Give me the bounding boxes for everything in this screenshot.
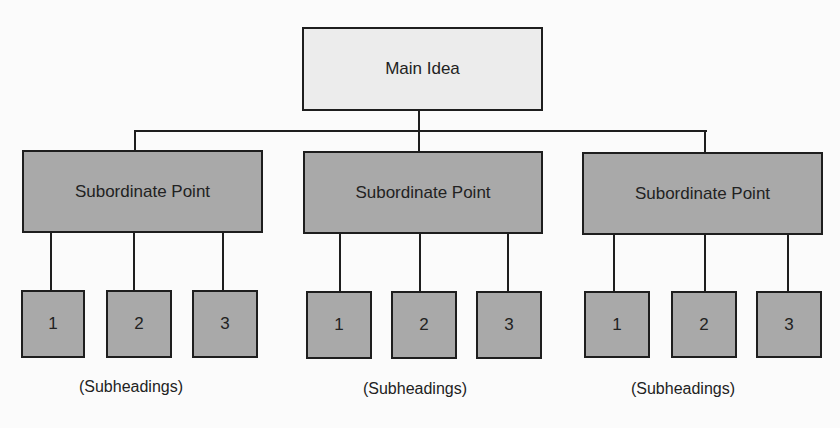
- subheading-number: 1: [48, 314, 57, 334]
- subheading-box-3-2: 2: [671, 291, 737, 358]
- subordinate-point-box-1: Subordinate Point: [22, 150, 263, 233]
- subheading-box-2-3: 3: [476, 291, 542, 359]
- subheading-number: 1: [612, 315, 621, 335]
- subheading-box-1-3: 3: [192, 290, 258, 358]
- connector-b1-c2: [133, 232, 135, 291]
- subordinate-point-label: Subordinate Point: [75, 182, 210, 202]
- subheading-box-1-2: 2: [106, 290, 172, 358]
- subheading-box-2-1: 1: [306, 291, 372, 359]
- connector-b3-c2: [704, 234, 706, 291]
- connector-b2-c1: [339, 233, 341, 291]
- connector-b3-c3: [787, 234, 789, 291]
- subheading-number: 2: [134, 314, 143, 334]
- subheadings-caption-2: (Subheadings): [335, 380, 495, 398]
- connector-branch-3: [704, 130, 706, 152]
- connector-root-down: [418, 109, 420, 131]
- main-idea-label: Main Idea: [385, 59, 460, 79]
- subordinate-point-box-2: Subordinate Point: [303, 151, 543, 234]
- main-idea-box: Main Idea: [302, 27, 543, 111]
- subheading-box-3-1: 1: [584, 291, 650, 358]
- subheading-box-1-1: 1: [21, 290, 85, 358]
- connector-horizontal-bus: [134, 130, 707, 132]
- subheading-number: 2: [699, 315, 708, 335]
- subheading-number: 3: [220, 314, 229, 334]
- subheading-number: 3: [504, 315, 513, 335]
- subheading-number: 2: [419, 315, 428, 335]
- connector-b3-c1: [613, 234, 615, 291]
- connector-b2-c2: [419, 233, 421, 291]
- subheading-box-2-2: 2: [391, 291, 457, 359]
- connector-b1-c3: [222, 232, 224, 291]
- subordinate-point-label: Subordinate Point: [635, 184, 770, 204]
- connector-branch-1: [134, 130, 136, 151]
- subheadings-caption-1: (Subheadings): [51, 378, 211, 396]
- connector-branch-2: [418, 130, 420, 151]
- connector-b2-c3: [507, 233, 509, 291]
- subheading-box-3-3: 3: [756, 291, 822, 358]
- subheading-number: 3: [784, 315, 793, 335]
- subheading-number: 1: [334, 315, 343, 335]
- subordinate-point-box-3: Subordinate Point: [582, 152, 823, 235]
- subordinate-point-label: Subordinate Point: [355, 183, 490, 203]
- subheadings-caption-3: (Subheadings): [603, 380, 763, 398]
- connector-b1-c1: [50, 232, 52, 291]
